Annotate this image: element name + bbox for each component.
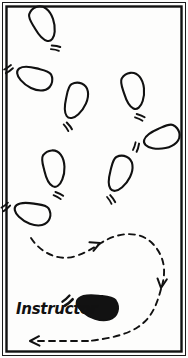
- instructor-label: Instructor: [16, 300, 99, 318]
- footprint-diagram: Instructor: [0, 0, 188, 358]
- diagram-canvas: Instructor: [0, 0, 188, 358]
